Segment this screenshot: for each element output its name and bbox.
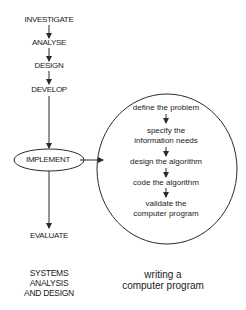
step-investigate: INVESTIGATE bbox=[24, 15, 73, 24]
left-caption-line-2: ANALYSIS bbox=[24, 278, 74, 288]
step-specify-line-1: specify the bbox=[134, 126, 198, 136]
step-develop: DEVELOP bbox=[31, 85, 67, 94]
step-design-algorithm: design the algorithm bbox=[130, 157, 202, 167]
step-validate-program: validate the computer program bbox=[133, 199, 198, 219]
step-specify-line-2: information needs bbox=[134, 136, 198, 146]
left-caption-line-1: SYSTEMS bbox=[24, 268, 74, 278]
right-caption-line-1: writing a bbox=[122, 269, 204, 280]
step-validate-line-1: validate the bbox=[133, 199, 198, 209]
step-validate-line-2: computer program bbox=[133, 209, 198, 219]
step-analyse: ANALYSE bbox=[32, 38, 66, 47]
left-caption-line-3: AND DESIGN bbox=[24, 288, 74, 298]
step-code-algorithm: code the algorithm bbox=[133, 178, 199, 188]
step-evaluate: EVALUATE bbox=[30, 231, 68, 240]
right-caption-line-2: computer program bbox=[122, 280, 204, 291]
step-design: DESIGN bbox=[35, 61, 64, 70]
step-implement: IMPLEMENT bbox=[26, 155, 70, 164]
program-circle bbox=[97, 94, 237, 244]
left-caption: SYSTEMS ANALYSIS AND DESIGN bbox=[24, 268, 74, 298]
right-caption: writing a computer program bbox=[122, 269, 204, 291]
step-specify-needs: specify the information needs bbox=[134, 126, 198, 146]
step-define-problem: define the problem bbox=[133, 103, 199, 113]
